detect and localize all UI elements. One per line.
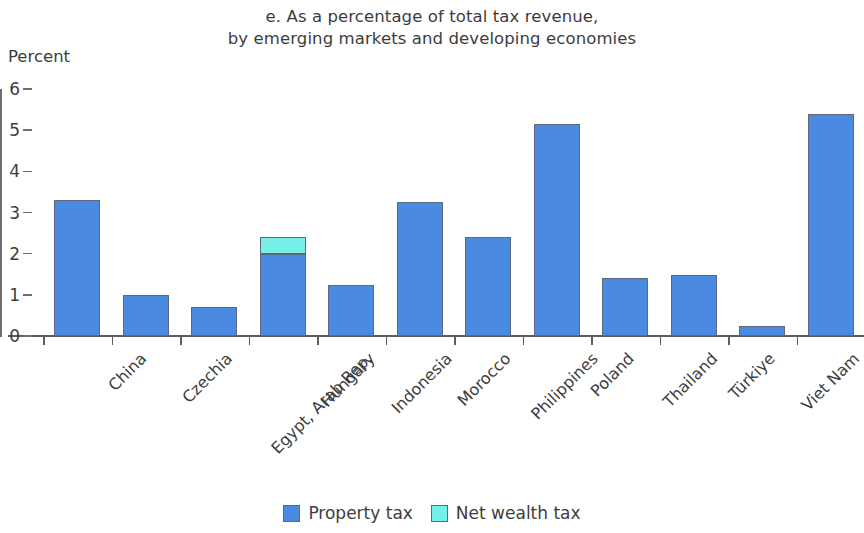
bar-poland[interactable]	[534, 0, 580, 336]
x-axis-tick	[112, 336, 114, 345]
y-axis-tick	[23, 171, 32, 173]
bar-south-africa[interactable]	[808, 0, 854, 336]
bar-thailand[interactable]	[602, 0, 648, 336]
y-axis-tick	[23, 129, 32, 131]
y-axis-tick-label: 0	[0, 326, 20, 346]
bar-indonesia[interactable]	[328, 0, 374, 336]
bar-segment-property-tax[interactable]	[397, 202, 443, 336]
x-axis-category-label: Türkiye	[724, 349, 778, 403]
x-axis-category-label: Viet Nam	[798, 349, 863, 414]
x-axis-tick	[386, 336, 388, 345]
bar-segment-property-tax[interactable]	[123, 295, 169, 336]
bar-egypt-arab-rep[interactable]	[191, 0, 237, 336]
x-axis-tick	[454, 336, 456, 345]
x-axis-category-label: Hungary	[317, 349, 379, 411]
bar-segment-property-tax[interactable]	[260, 254, 306, 336]
bar-morocco[interactable]	[397, 0, 443, 336]
x-axis-category-label: Indonesia	[388, 349, 456, 417]
x-axis-category-label: China	[104, 349, 150, 395]
bar-segment-property-tax[interactable]	[671, 275, 717, 336]
chart-legend: Property taxNet wealth tax	[0, 503, 864, 523]
y-axis-tick-label: 1	[0, 285, 20, 305]
x-axis-tick	[317, 336, 319, 345]
y-axis-tick	[23, 253, 32, 255]
x-axis-tick	[249, 336, 251, 345]
bar-segment-property-tax[interactable]	[54, 200, 100, 336]
bar-viet-nam[interactable]	[739, 0, 785, 336]
x-axis-category-label: Czechia	[178, 349, 236, 407]
bar-segment-property-tax[interactable]	[602, 278, 648, 336]
y-axis-tick-label: 6	[0, 79, 20, 99]
x-axis-category-label: Morocco	[453, 349, 514, 410]
bar-philippines[interactable]	[465, 0, 511, 336]
x-axis-tick	[180, 336, 182, 345]
x-axis-tick	[797, 336, 799, 345]
x-axis-tick	[660, 336, 662, 345]
bar-segment-property-tax[interactable]	[465, 237, 511, 336]
x-axis-tick	[43, 336, 45, 345]
bar-segment-property-tax[interactable]	[328, 285, 374, 336]
legend-swatch-icon	[283, 505, 300, 522]
bar-segment-property-tax[interactable]	[534, 124, 580, 336]
bar-segment-property-tax[interactable]	[191, 307, 237, 336]
x-axis-tick	[591, 336, 593, 345]
y-axis-tick	[23, 335, 32, 337]
y-axis-tick-label: 2	[0, 244, 20, 264]
legend-label: Net wealth tax	[456, 503, 581, 523]
bar-hungary[interactable]	[260, 0, 306, 336]
bar-segment-property-tax[interactable]	[739, 326, 785, 336]
x-axis-tick	[523, 336, 525, 345]
bar-t-rkiye[interactable]	[671, 0, 717, 336]
bar-segment-net-wealth-tax[interactable]	[260, 237, 306, 253]
legend-swatch-icon	[431, 505, 448, 522]
bar-czechia[interactable]	[123, 0, 169, 336]
x-axis-tick	[728, 336, 730, 345]
legend-item-property-tax[interactable]: Property tax	[283, 503, 412, 523]
x-axis-category-label: Thailand	[659, 349, 721, 411]
y-axis-tick	[23, 88, 32, 90]
legend-item-net-wealth-tax[interactable]: Net wealth tax	[431, 503, 581, 523]
y-axis-tick-label: 3	[0, 203, 20, 223]
bar-china[interactable]	[54, 0, 100, 336]
y-axis-tick-label: 4	[0, 161, 20, 181]
y-axis-tick-label: 5	[0, 120, 20, 140]
y-axis-tick	[23, 212, 32, 214]
y-axis-tick	[23, 294, 32, 296]
legend-label: Property tax	[308, 503, 412, 523]
bar-segment-property-tax[interactable]	[808, 114, 854, 336]
